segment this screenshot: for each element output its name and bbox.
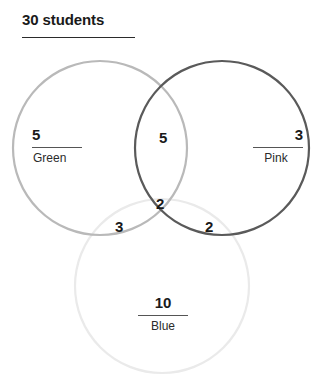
region-green-pink-count: 5	[159, 129, 167, 146]
region-blue-only: 10 Blue	[134, 294, 192, 333]
region-blue-rule	[138, 315, 188, 316]
region-pink-count: 3	[249, 126, 303, 143]
venn-diagram-figure: 30 students 5 Green 3 Pink 10 Blue 5 2 3…	[0, 0, 327, 385]
region-pink-only: 3 Pink	[249, 126, 303, 165]
region-pink-label: Pink	[249, 151, 303, 165]
region-green-count: 5	[32, 126, 88, 143]
region-blue-label: Blue	[134, 319, 192, 333]
region-green-only: 5 Green	[32, 126, 88, 165]
region-green-label: Green	[32, 151, 88, 165]
region-green-rule	[32, 147, 82, 148]
region-pink-rule	[253, 147, 303, 148]
region-pink-blue-count: 2	[205, 218, 213, 235]
circle-blue	[75, 199, 249, 373]
region-green-blue-count: 3	[115, 218, 123, 235]
region-green-pink-blue-count: 2	[156, 195, 164, 212]
region-blue-count: 10	[134, 294, 192, 311]
